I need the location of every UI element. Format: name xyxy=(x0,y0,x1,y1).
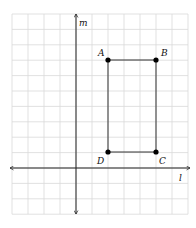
axis-label-m: m xyxy=(79,18,88,28)
point-d xyxy=(105,149,110,154)
grid xyxy=(12,14,188,214)
axes: l m xyxy=(10,14,190,214)
point-label-c: C xyxy=(159,156,166,166)
point-label-a: A xyxy=(97,48,105,58)
point-a xyxy=(105,57,110,62)
axis-label-l: l xyxy=(179,173,182,183)
point-c xyxy=(153,149,158,154)
vertices: ABCD xyxy=(96,48,168,166)
point-label-b: B xyxy=(160,48,168,58)
point-label-d: D xyxy=(96,156,104,166)
point-b xyxy=(153,57,158,62)
coordinate-diagram: l m ABCD xyxy=(0,0,196,228)
